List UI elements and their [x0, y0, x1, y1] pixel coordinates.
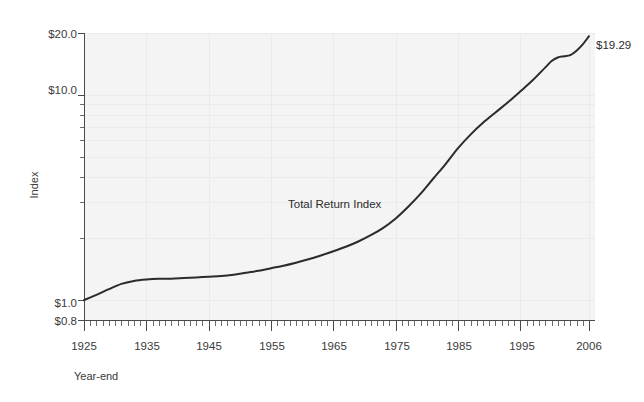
x-tick-label-1935: 1935: [134, 340, 160, 352]
x-tick-label-1925: 1925: [71, 340, 97, 352]
x-tick-label-1955: 1955: [259, 340, 285, 352]
x-tick-label-1975: 1975: [384, 340, 410, 352]
endpoint-value-label: $19.29: [596, 39, 631, 51]
x-tick-label-1985: 1985: [446, 340, 472, 352]
y-tick-label-0-8: $0.8: [55, 315, 77, 327]
chart-container: $20.0 $10.0 $1.0 $0.8 1925 1935 1945 195…: [0, 0, 644, 402]
y-tick-label-1: $1.0: [55, 297, 77, 309]
x-axis-title: Year-end: [74, 370, 118, 382]
x-tick-label-1945: 1945: [196, 340, 222, 352]
plot-area-background: [84, 33, 595, 320]
x-tick-label-1965: 1965: [321, 340, 347, 352]
total-return-index-line-chart: $20.0 $10.0 $1.0 $0.8 1925 1935 1945 195…: [0, 0, 644, 402]
y-axis-title: Index: [28, 171, 40, 198]
series-annotation-label: Total Return Index: [288, 198, 382, 210]
x-tick-label-1995: 1995: [509, 340, 535, 352]
y-tick-label-10: $10.0: [48, 84, 77, 96]
y-tick-label-20: $20.0: [48, 28, 77, 40]
x-tick-label-2006: 2006: [576, 340, 602, 352]
